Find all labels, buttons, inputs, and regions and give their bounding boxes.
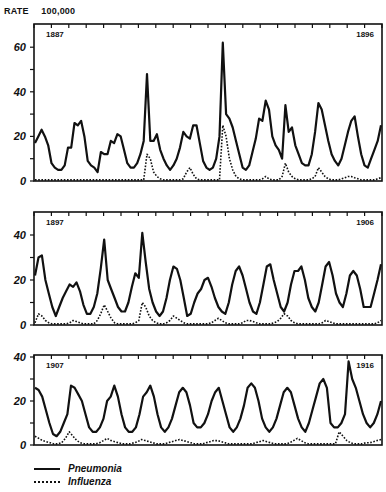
y-tick-label: 0 <box>20 319 27 331</box>
y-tick-label: 40 <box>13 351 27 363</box>
legend-label: Pneumonia <box>68 463 122 474</box>
chart-panel-1887-1896: 020406018871896 <box>13 24 382 187</box>
series-pneumonia-line <box>35 43 381 172</box>
series-pneumonia-line <box>35 361 381 436</box>
y-tick-label: 20 <box>13 395 27 407</box>
y-tick-label: 60 <box>14 41 27 53</box>
chart-canvas: 0204060188718960204018971906020401907191… <box>0 0 386 492</box>
chart-panel-1907-1916: 0204019071916 <box>13 351 382 451</box>
panel-end-year: 1906 <box>356 218 374 227</box>
legend-item-influenza: Influenza <box>34 475 122 488</box>
series-pneumonia-line <box>35 233 381 316</box>
panel-end-year: 1916 <box>356 361 374 370</box>
y-tick-label: 0 <box>20 175 27 187</box>
y-tick-label: 40 <box>13 86 27 98</box>
y-tick-label: 40 <box>13 229 27 241</box>
legend-label: Influenza <box>68 476 111 487</box>
y-tick-label: 0 <box>20 439 27 451</box>
solid-line-icon <box>34 468 60 470</box>
plot-frame <box>34 355 382 445</box>
chart-panel-1897-1906: 0204018971906 <box>13 212 382 331</box>
legend: Pneumonia Influenza <box>34 462 122 488</box>
dotted-line-icon <box>34 481 60 483</box>
panel-start-year: 1907 <box>46 361 64 370</box>
legend-item-pneumonia: Pneumonia <box>34 462 122 475</box>
panel-start-year: 1887 <box>46 30 64 39</box>
y-tick-label: 20 <box>13 130 27 142</box>
y-tick-label: 20 <box>13 274 27 286</box>
series-influenza-line <box>35 432 381 444</box>
panel-start-year: 1897 <box>46 218 64 227</box>
panel-end-year: 1896 <box>356 30 374 39</box>
